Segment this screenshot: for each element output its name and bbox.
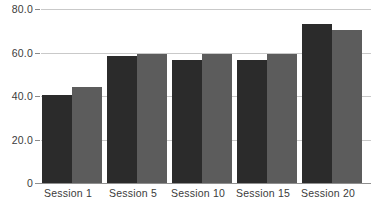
tick-mark-80 bbox=[35, 9, 40, 10]
y-tick-label-80: 80.0 bbox=[0, 4, 33, 15]
bar bbox=[42, 95, 72, 183]
bar bbox=[107, 56, 137, 183]
bar-group bbox=[107, 9, 167, 183]
bar-chart: 80.0 60.0 40.0 20.0 0 Session 1 Session … bbox=[0, 0, 373, 206]
bar bbox=[267, 54, 297, 183]
tick-mark-40 bbox=[35, 96, 40, 97]
bar bbox=[332, 30, 362, 183]
bar bbox=[202, 54, 232, 183]
plot-area bbox=[41, 9, 371, 183]
y-tick-label-40: 40.0 bbox=[0, 91, 33, 102]
bar bbox=[72, 87, 102, 183]
bar-group bbox=[42, 9, 102, 183]
bar-group bbox=[172, 9, 232, 183]
y-tick-label-20: 20.0 bbox=[0, 134, 33, 145]
x-tick-label-session-20: Session 20 bbox=[288, 186, 368, 200]
x-axis-line bbox=[35, 183, 371, 184]
tick-mark-20 bbox=[35, 140, 40, 141]
y-axis: 80.0 60.0 40.0 20.0 0 bbox=[0, 0, 33, 206]
bar bbox=[172, 60, 202, 183]
bar bbox=[137, 54, 167, 183]
bar-group bbox=[237, 9, 297, 183]
bar-group bbox=[302, 9, 362, 183]
bar bbox=[302, 24, 332, 183]
bars-layer bbox=[41, 9, 371, 183]
tick-mark-60 bbox=[35, 53, 40, 54]
x-axis: Session 1 Session 5 Session 10 Session 1… bbox=[41, 186, 371, 206]
bar bbox=[237, 60, 267, 183]
y-tick-label-60: 60.0 bbox=[0, 47, 33, 58]
